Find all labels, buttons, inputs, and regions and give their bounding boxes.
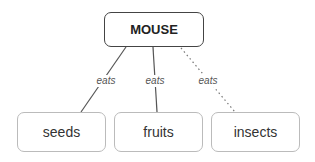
node-fruits-label: fruits: [143, 124, 173, 140]
node-fruits: fruits: [114, 112, 203, 152]
edge-label-fruits: eats: [145, 75, 166, 87]
edge-label-insects: eats: [198, 75, 219, 87]
edge-label-seeds: eats: [96, 75, 117, 87]
node-mouse: MOUSE: [104, 12, 204, 47]
node-mouse-label: MOUSE: [130, 22, 178, 37]
node-insects: insects: [211, 112, 300, 152]
node-seeds: seeds: [17, 112, 106, 152]
node-seeds-label: seeds: [43, 124, 80, 140]
node-insects-label: insects: [234, 124, 278, 140]
